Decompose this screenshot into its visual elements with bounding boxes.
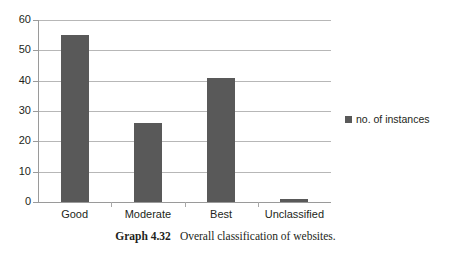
legend-swatch-no-of-instances [345, 116, 352, 123]
y-axis-tick-label: 60 [3, 14, 31, 25]
plot-area [38, 20, 331, 202]
y-axis-tick-label: 10 [3, 166, 31, 177]
y-axis-tick-label: 20 [3, 135, 31, 146]
x-axis-label-good: Good [38, 207, 111, 221]
y-axis-tick-label: 50 [3, 44, 31, 55]
legend-label-no-of-instances: no. of instances [356, 113, 430, 125]
y-axis-labels: 0102030405060 [0, 0, 31, 253]
bar-chart-figure: 0102030405060 GoodModerateBestUnclassifi… [0, 0, 451, 253]
x-axis-label-moderate: Moderate [111, 207, 184, 221]
y-axis-tick [33, 50, 39, 51]
y-axis-tick [33, 172, 39, 173]
y-axis-tick-label: 0 [3, 196, 31, 207]
caption-text: Overall classification of websites. [180, 230, 336, 242]
chart-legend: no. of instances [345, 113, 430, 125]
y-axis-tick-label: 30 [3, 105, 31, 116]
y-axis-tick [33, 141, 39, 142]
x-axis-label-unclassified: Unclassified [258, 207, 331, 221]
y-axis-tick [33, 81, 39, 82]
bar-best [207, 78, 235, 202]
bar-good [61, 35, 89, 202]
x-axis-tick [185, 202, 186, 207]
x-axis-tick [111, 202, 112, 207]
y-axis-tick [33, 111, 39, 112]
figure-caption: Graph 4.32Overall classification of webs… [0, 229, 451, 243]
caption-label: Graph 4.32 [115, 230, 171, 242]
bar-moderate [134, 123, 162, 202]
bar-unclassified [280, 199, 308, 202]
x-axis-tick [258, 202, 259, 207]
y-axis-tick [33, 202, 39, 203]
gridline [38, 20, 331, 21]
x-axis-label-best: Best [185, 207, 258, 221]
y-axis-tick-label: 40 [3, 75, 31, 86]
y-axis-tick [33, 20, 39, 21]
x-axis-labels: GoodModerateBestUnclassified [38, 207, 331, 225]
